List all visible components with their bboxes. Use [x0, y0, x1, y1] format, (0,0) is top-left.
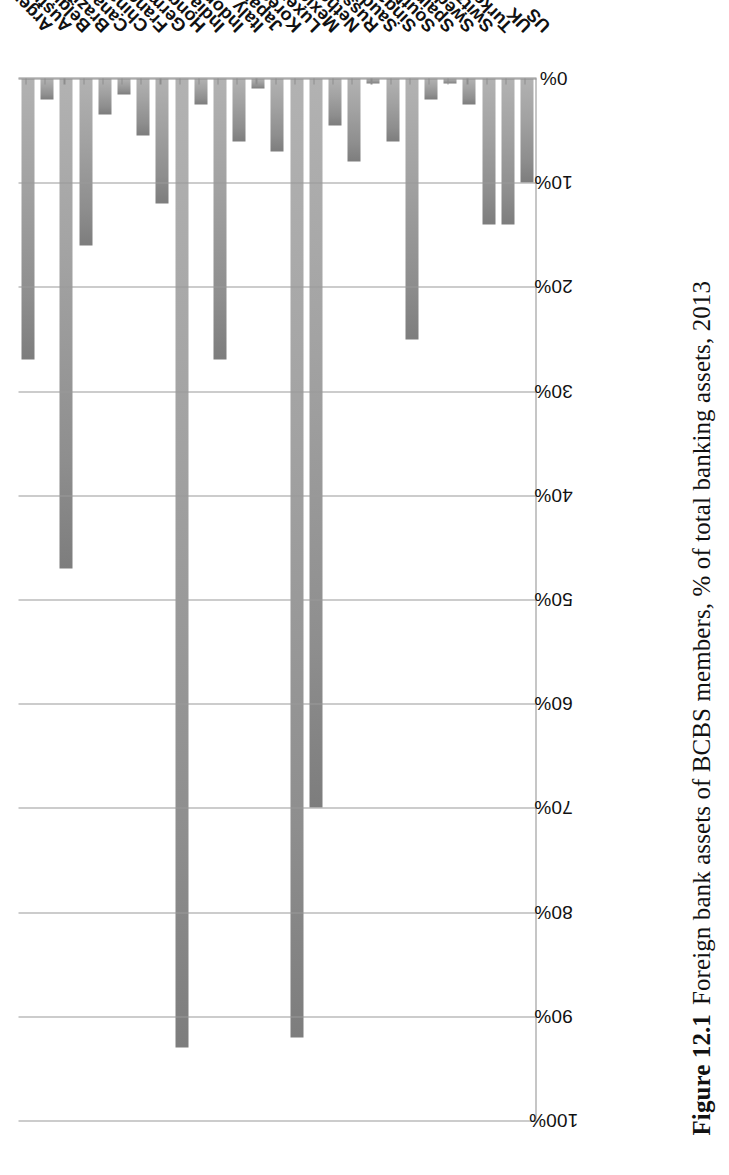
bar-france — [136, 78, 149, 135]
bar-slot — [95, 78, 114, 1119]
gridline-40 — [18, 495, 536, 496]
bar-slot — [306, 78, 325, 1119]
bar-argentina — [21, 78, 34, 359]
value-axis-labels: 0%10%20%30%40%50%60%70%80%90%100% — [542, 77, 588, 1119]
chart-area: 0%10%20%30%40%50%60%70%80%90%100% Argent… — [18, 77, 584, 1119]
bar-slot — [133, 78, 152, 1119]
bar-turkey — [482, 78, 495, 224]
category-tick — [217, 78, 218, 84]
plot-region — [18, 77, 536, 1119]
bar-south-africa — [405, 78, 418, 339]
gridline-100 — [18, 1120, 536, 1121]
bar-slot — [191, 78, 210, 1119]
category-tick — [428, 78, 429, 84]
gridline-80 — [18, 912, 536, 913]
bar-slot — [37, 78, 56, 1119]
category-tick — [275, 78, 276, 84]
bar-slot — [421, 78, 440, 1119]
value-tick-label: 20% — [534, 274, 573, 296]
category-tick — [294, 78, 295, 84]
category-tick — [198, 78, 199, 84]
bar-germany — [155, 78, 168, 203]
bar-slot — [267, 78, 286, 1119]
figure-caption-text: Foreign bank assets of BCBS members, % o… — [687, 280, 714, 1004]
figure-root: 0%10%20%30%40%50%60%70%80%90%100% Argent… — [0, 0, 729, 1175]
bar-uk — [501, 78, 514, 224]
bar-korea — [270, 78, 283, 151]
bar-slot — [517, 78, 536, 1119]
bar-slot — [248, 78, 267, 1119]
value-tick-label: 10% — [534, 170, 573, 192]
category-tick — [486, 78, 487, 84]
bar-australia — [40, 78, 53, 99]
bar-slot — [402, 78, 421, 1119]
gridline-60 — [18, 703, 536, 704]
category-tick — [466, 78, 467, 84]
bar-slot — [152, 78, 171, 1119]
bar-slot — [440, 78, 459, 1119]
category-tick — [370, 78, 371, 84]
gridline-90 — [18, 1016, 536, 1017]
category-tick — [313, 78, 314, 84]
figure-caption: Figure 12.1Foreign bank assets of BCBS m… — [687, 35, 715, 1135]
category-tick — [140, 78, 141, 84]
category-tick — [351, 78, 352, 84]
gridline-50 — [18, 599, 536, 600]
gridline-20 — [18, 286, 536, 287]
value-tick-label: 50% — [534, 587, 573, 609]
value-tick-label: 30% — [534, 379, 573, 401]
category-tick — [102, 78, 103, 84]
bar-slot — [76, 78, 95, 1119]
value-tick-label: 60% — [534, 691, 573, 713]
bar-canada — [98, 78, 111, 114]
bar-slot — [18, 78, 37, 1119]
gridline-0 — [18, 78, 536, 79]
bar-luxembourg — [290, 78, 303, 1037]
bar-slot — [363, 78, 382, 1119]
bar-slot — [56, 78, 75, 1119]
bar-slot — [344, 78, 363, 1119]
bar-singapore — [386, 78, 399, 141]
gridline-70 — [18, 807, 536, 808]
bar-slot — [478, 78, 497, 1119]
category-tick — [121, 78, 122, 84]
bar-slot — [498, 78, 517, 1119]
category-tick — [524, 78, 525, 84]
value-tick-label: 40% — [534, 483, 573, 505]
category-tick — [25, 78, 26, 84]
category-tick — [332, 78, 333, 84]
bar-slot — [171, 78, 190, 1119]
bar-mexico — [309, 78, 322, 807]
category-tick — [255, 78, 256, 84]
category-tick — [236, 78, 237, 84]
bar-slot — [459, 78, 478, 1119]
bar-series — [18, 78, 536, 1119]
bar-switzerland — [462, 78, 475, 104]
bar-russia — [347, 78, 360, 161]
bar-hong-kong — [175, 78, 188, 1047]
gridline-30 — [18, 391, 536, 392]
category-tick — [44, 78, 45, 84]
value-tick-label: 0% — [539, 66, 567, 88]
bar-brazil — [79, 78, 92, 245]
gridline-10 — [18, 182, 536, 183]
bar-belgium — [59, 78, 72, 568]
bar-indonesia — [213, 78, 226, 359]
category-tick — [83, 78, 84, 84]
category-tick — [390, 78, 391, 84]
value-tick-label: 100% — [528, 1108, 577, 1130]
bar-spain — [424, 78, 437, 99]
value-tick-label: 90% — [534, 1004, 573, 1026]
category-tick — [159, 78, 160, 84]
figure-number: Figure 12.1 — [687, 1014, 714, 1135]
category-tick — [63, 78, 64, 84]
bar-slot — [114, 78, 133, 1119]
bar-slot — [287, 78, 306, 1119]
bar-slot — [229, 78, 248, 1119]
bar-india — [194, 78, 207, 104]
category-tick — [447, 78, 448, 84]
bar-china — [117, 78, 130, 94]
bar-slot — [383, 78, 402, 1119]
value-tick-label: 70% — [534, 795, 573, 817]
category-label-us: US — [522, 3, 555, 36]
